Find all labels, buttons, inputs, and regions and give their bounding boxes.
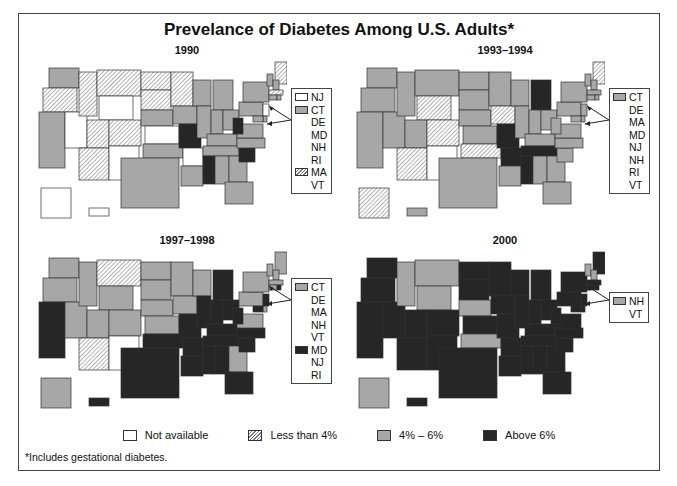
state-ri [595, 95, 599, 100]
state-abbrev-label: NJ [629, 141, 642, 154]
legend-item-lt4: Less than 4% [248, 429, 337, 441]
state-wv [233, 118, 243, 134]
state-wi [511, 270, 529, 296]
inset-legend-row: NH [295, 141, 327, 154]
state-sc [557, 338, 573, 352]
state-ne [459, 110, 491, 126]
state-ny [243, 82, 269, 102]
inset-legend-row: VT [613, 308, 644, 321]
state-id [79, 262, 97, 306]
state-al [533, 156, 547, 184]
figure-title: Prevelance of Diabetes Among U.S. Adults… [19, 20, 659, 40]
state-sc [239, 338, 255, 352]
state-ia [173, 106, 197, 124]
map-panel-1997-1998: 1997–1998 CTDEMANHVTMDNJRI [27, 234, 347, 424]
state-nh [591, 270, 597, 280]
state-az [79, 148, 109, 180]
inset-legend-row: NH [613, 295, 644, 308]
state-ca [39, 302, 65, 358]
state-abbrev-label: RI [311, 154, 322, 167]
state-tn [521, 146, 557, 156]
state-az [397, 148, 427, 180]
state-sd [141, 90, 171, 110]
state-il [515, 296, 529, 328]
state-ks [145, 316, 179, 334]
legend-swatch [295, 106, 308, 114]
state-ri [277, 95, 281, 100]
state-ks [145, 126, 179, 144]
state-abbrev-label: MD [629, 129, 645, 142]
legend-swatch [613, 93, 626, 101]
state-ca [357, 302, 383, 358]
inset-legend-row: MD [295, 344, 327, 357]
inset-legend-northeast: CTDEMANHVTMDNJRI [291, 278, 332, 384]
state-hi [407, 398, 427, 406]
state-wi [193, 270, 211, 296]
state-abbrev-label: MA [629, 116, 645, 129]
state-wy [99, 286, 133, 310]
state-or [361, 88, 395, 112]
state-nc [237, 138, 265, 148]
state-pa [239, 102, 263, 116]
state-nh [591, 80, 597, 90]
state-mn [171, 72, 193, 106]
state-wa [367, 68, 397, 88]
legend-item-na: Not available [123, 429, 209, 441]
state-az [397, 338, 427, 370]
legend-label: Above 6% [505, 429, 555, 441]
inset-legend-row: CT [295, 281, 327, 294]
state-wa [367, 258, 397, 278]
state-nv [65, 112, 87, 148]
panel-title: 1997–1998 [27, 234, 347, 246]
state-tx [439, 158, 497, 208]
state-nc [555, 328, 583, 338]
state-pa [557, 102, 581, 116]
state-ok [461, 334, 501, 348]
state-sd [141, 280, 171, 300]
state-ia [491, 106, 515, 124]
state-sd [459, 90, 489, 110]
state-ks [463, 126, 497, 144]
state-abbrev-label: NJ [311, 91, 324, 104]
inset-legend-row: MD [295, 129, 327, 142]
state-ak [359, 378, 389, 408]
state-ct [269, 95, 277, 100]
state-hi [407, 208, 427, 216]
inset-legend-row: MA [613, 116, 645, 129]
us-map [345, 248, 605, 424]
state-abbrev-label: VT [629, 179, 642, 192]
pointer-arrow-icon [583, 102, 611, 138]
legend-label: Less than 4% [270, 429, 337, 441]
state-abbrev-label: CT [311, 104, 325, 117]
state-abbrev-label: CT [629, 91, 643, 104]
state-in [211, 110, 223, 134]
state-al [215, 156, 229, 184]
legend-label: Not available [145, 429, 209, 441]
state-vt [267, 74, 273, 86]
state-wa [49, 68, 79, 88]
state-wv [551, 118, 561, 134]
map-panel-1993-1994: 1993–1994 CTDEMAMDNJNHRIVT [345, 44, 665, 234]
inset-legend-row: RI [295, 369, 327, 382]
state-tx [121, 158, 179, 208]
state-ca [39, 112, 65, 168]
inset-legend-row: CT [613, 91, 645, 104]
inset-legend-northeast: CTDEMAMDNJNHRIVT [609, 88, 650, 194]
state-mi [531, 80, 551, 110]
state-abbrev-label: NH [629, 295, 644, 308]
state-il [197, 296, 211, 328]
state-tx [121, 348, 179, 398]
bottom-legend: Not availableLess than 4%4% – 6%Above 6% [19, 429, 659, 441]
inset-legend-row: VT [613, 179, 645, 192]
state-wy [417, 286, 451, 310]
legend-swatch [123, 430, 137, 441]
state-abbrev-label: VT [311, 179, 324, 192]
state-id [79, 72, 97, 116]
state-fl [543, 372, 571, 394]
state-nd [459, 262, 489, 280]
state-ut [405, 310, 427, 338]
inset-legend-row: CT [295, 104, 327, 117]
state-wv [551, 308, 561, 324]
state-or [43, 88, 77, 112]
state-ar [501, 338, 521, 356]
